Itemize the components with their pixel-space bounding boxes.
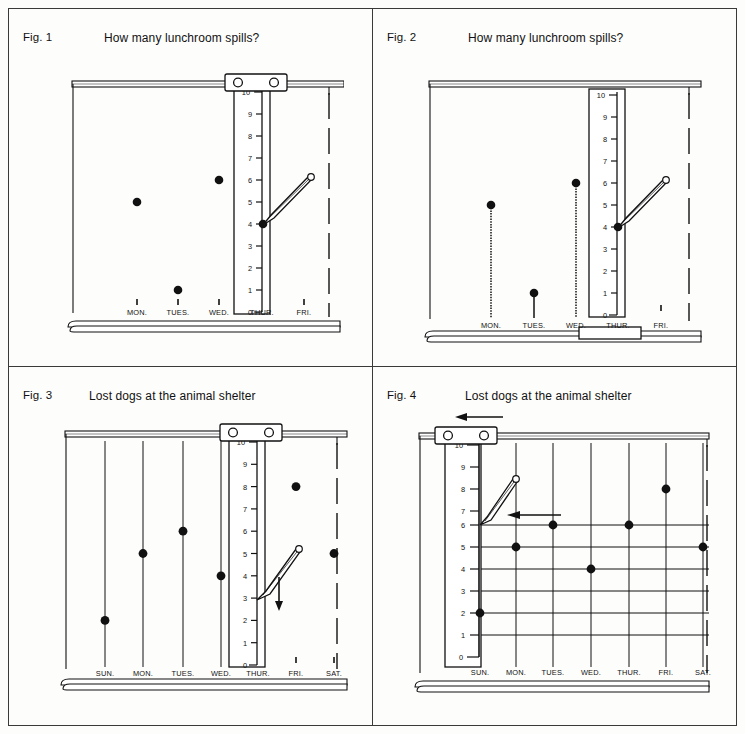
data-point-tues <box>549 521 558 530</box>
svg-text:0: 0 <box>459 653 463 662</box>
data-point-mon <box>133 198 142 207</box>
figure-panel-2: Fig. 2 How many lunchroom spills? <box>373 9 745 375</box>
x-label-fri: FRI. <box>289 669 304 678</box>
x-label-tues: TUES. <box>167 308 190 317</box>
x-label-wed: WED. <box>566 321 586 330</box>
svg-text:1: 1 <box>243 639 247 648</box>
fig-2-board: 10 9 8 7 6 5 4 3 <box>421 69 711 369</box>
data-point-wed <box>215 176 224 185</box>
x-label-wed: WED. <box>211 669 231 678</box>
page-root: Fig. 1 How many lunchroom spills? <box>0 0 745 734</box>
x-label-tues: TUES. <box>172 669 195 678</box>
pencil-icon[interactable] <box>480 476 519 525</box>
x-label-fri: FRI. <box>659 668 674 677</box>
svg-text:5: 5 <box>243 550 247 559</box>
x-label-mon: MON. <box>133 669 153 678</box>
x-label-thur: THUR. <box>617 668 641 677</box>
ruler-slider-top[interactable] <box>225 74 287 91</box>
ruler-slider-left[interactable] <box>435 427 497 444</box>
fig-4-board: 10 9 8 7 6 5 4 3 <box>401 405 731 715</box>
svg-text:4: 4 <box>461 565 465 574</box>
svg-text:2: 2 <box>243 616 247 625</box>
svg-text:2: 2 <box>603 267 607 276</box>
x-label-thur: THUR. <box>250 308 274 317</box>
ruler-body[interactable]: 10 9 8 7 6 5 4 3 <box>234 86 270 317</box>
fig-2-label: Fig. 2 <box>387 31 416 43</box>
data-point-tues <box>179 527 188 536</box>
data-point-thur <box>625 521 634 530</box>
svg-text:0: 0 <box>603 311 607 320</box>
stem-lines <box>491 183 576 318</box>
data-point-wed <box>217 571 226 580</box>
svg-text:9: 9 <box>248 110 252 119</box>
svg-text:1: 1 <box>248 286 252 295</box>
x-label-sun: SUN. <box>471 668 489 677</box>
svg-text:5: 5 <box>461 543 465 552</box>
svg-text:1: 1 <box>603 289 607 298</box>
data-point-sun <box>476 609 485 618</box>
svg-text:6: 6 <box>243 527 247 536</box>
svg-text:9: 9 <box>243 460 247 469</box>
data-point-wed <box>587 565 596 574</box>
top-rail <box>429 81 701 87</box>
fig-3-title: Lost dogs at the animal shelter <box>89 389 256 403</box>
svg-text:8: 8 <box>248 132 252 141</box>
svg-text:3: 3 <box>243 594 247 603</box>
svg-text:10: 10 <box>597 91 605 100</box>
x-label-thur: THUR. <box>606 321 630 330</box>
fig-1-label: Fig. 1 <box>23 31 52 43</box>
pencil-icon[interactable] <box>618 177 669 228</box>
data-point-mon <box>512 543 521 552</box>
x-label-mon: MON. <box>127 308 147 317</box>
vertical-grid-lines <box>516 443 703 667</box>
svg-text:4: 4 <box>243 572 247 581</box>
horizontal-grid-lines <box>480 525 709 635</box>
data-point-sat <box>330 549 339 558</box>
svg-text:8: 8 <box>603 135 607 144</box>
svg-text:6: 6 <box>461 521 465 530</box>
svg-text:9: 9 <box>603 113 607 122</box>
x-label-wed: WED. <box>209 308 229 317</box>
ruler-body[interactable]: 10 9 8 7 6 5 4 3 <box>589 89 625 320</box>
x-label-wed: WED. <box>581 668 601 677</box>
left-arrow-top-icon <box>455 413 503 421</box>
top-rail <box>65 431 347 437</box>
x-label-tues: TUES. <box>523 321 546 330</box>
bottom-rail <box>425 331 701 342</box>
ruler-body[interactable]: 10 9 8 7 6 5 4 3 <box>229 436 265 670</box>
svg-text:5: 5 <box>248 198 252 207</box>
svg-text:7: 7 <box>603 157 607 166</box>
data-point-tues <box>530 289 539 298</box>
figure-panel-3: Fig. 3 Lost dogs at the animal shelter <box>9 367 381 733</box>
data-point-wed <box>572 179 581 188</box>
x-axis-labels: SUN. MON. TUES. WED. THUR. FRI. SAT. <box>471 668 711 677</box>
figure-panel-1: Fig. 1 How many lunchroom spills? <box>9 9 381 375</box>
ruler-body[interactable]: 10 9 8 7 6 5 4 3 <box>445 438 481 667</box>
svg-text:3: 3 <box>461 587 465 596</box>
svg-text:3: 3 <box>603 245 607 254</box>
ruler-slider-top[interactable] <box>220 424 282 441</box>
svg-text:4: 4 <box>248 220 252 229</box>
x-axis-labels: SUN. MON. TUES. WED. THUR. FRI. SAT. <box>96 657 342 678</box>
svg-text:8: 8 <box>243 483 247 492</box>
x-label-sun: SUN. <box>96 669 114 678</box>
svg-text:3: 3 <box>248 242 252 251</box>
svg-text:7: 7 <box>248 154 252 163</box>
fig-3-label: Fig. 3 <box>23 389 52 401</box>
svg-text:6: 6 <box>603 179 607 188</box>
data-point-tues <box>174 286 183 295</box>
svg-text:8: 8 <box>461 485 465 494</box>
x-label-tues: TUES. <box>542 668 565 677</box>
data-point-sun <box>101 616 110 625</box>
bottom-rail <box>61 679 347 690</box>
svg-text:2: 2 <box>461 609 465 618</box>
figure-panel-4: Fig. 4 Lost dogs at the animal shelter <box>373 367 745 733</box>
pencil-icon[interactable] <box>263 174 314 225</box>
x-label-mon: MON. <box>481 321 501 330</box>
svg-text:7: 7 <box>243 505 247 514</box>
data-point-mon <box>487 201 496 210</box>
data-points <box>101 482 339 625</box>
vertical-grid-lines <box>105 441 221 667</box>
fig-4-label: Fig. 4 <box>387 389 416 401</box>
data-point-sat <box>699 543 708 552</box>
